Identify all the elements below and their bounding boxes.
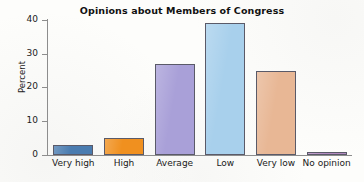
y-tick-label-10: 10 <box>14 116 38 125</box>
bar-very-high <box>53 145 93 155</box>
bar-highlight <box>257 72 295 154</box>
x-tick-label-average: Average <box>149 159 200 169</box>
plot-area <box>48 20 352 155</box>
x-tick-label-very-high: Very high <box>48 159 99 169</box>
bar-chart-figure: Opinions about Members of Congress 0 10 … <box>0 0 364 182</box>
y-tick-label-0: 0 <box>14 150 38 159</box>
x-tick-label-high: High <box>99 159 150 169</box>
bar-highlight <box>54 146 92 154</box>
y-tick-0 <box>42 155 47 156</box>
x-axis-line <box>47 155 352 156</box>
x-tick-label-very-low: Very low <box>251 159 302 169</box>
y-tick-10 <box>42 121 47 122</box>
bar-highlight <box>308 153 346 154</box>
y-tick-label-40: 40 <box>14 15 38 24</box>
bar-very-low <box>256 71 296 155</box>
chart-title: Opinions about Members of Congress <box>0 5 364 16</box>
bar-low <box>205 23 245 155</box>
bar-highlight <box>105 139 143 154</box>
bar-highlight <box>206 24 244 154</box>
x-tick-label-no-opinion: No opinion <box>301 159 352 169</box>
y-tick-20 <box>42 87 47 88</box>
bar-high <box>104 138 144 155</box>
y-tick-40 <box>42 20 47 21</box>
bar-no-opinion <box>307 152 347 155</box>
y-tick-30 <box>42 54 47 55</box>
x-tick-label-low: Low <box>200 159 251 169</box>
y-axis-title: Percent <box>17 47 27 107</box>
bar-highlight <box>156 65 194 154</box>
bar-average <box>155 64 195 155</box>
